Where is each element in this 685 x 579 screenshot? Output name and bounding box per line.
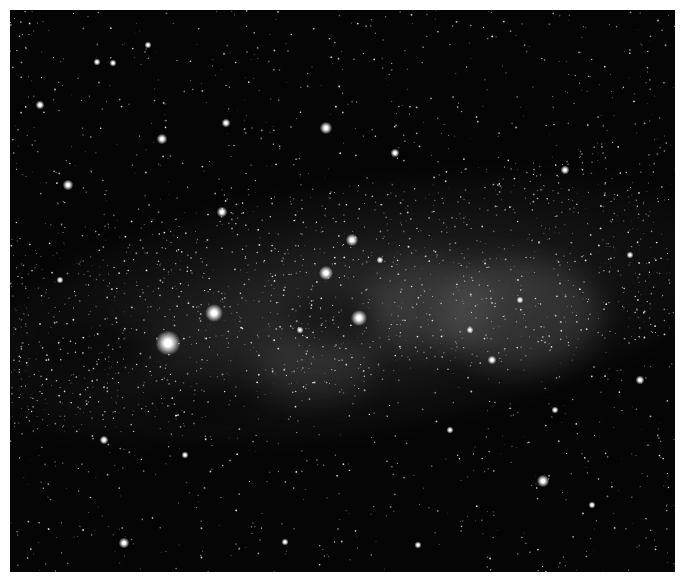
milky-way-photo xyxy=(10,10,675,572)
star-field xyxy=(10,10,675,572)
